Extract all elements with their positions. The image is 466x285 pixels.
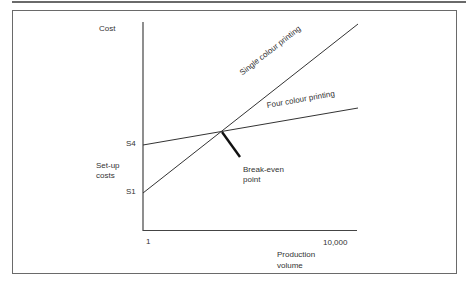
s4-tick-label: S4 xyxy=(126,139,136,149)
four-colour-line xyxy=(143,108,358,145)
break-even-label-1: Break-even xyxy=(243,165,284,175)
x-axis-label-1: Production xyxy=(277,250,315,260)
setup-costs-label-1: Set-up xyxy=(96,161,120,171)
s1-tick-label: S1 xyxy=(126,187,136,197)
break-even-arrow xyxy=(222,132,240,157)
y-axis-label: Cost xyxy=(99,24,115,34)
x-max-tick-label: 10,000 xyxy=(323,238,347,248)
x-axis-label-2: volume xyxy=(277,261,303,271)
setup-costs-label-2: costs xyxy=(96,171,115,181)
x-min-tick-label: 1 xyxy=(146,237,150,247)
break-even-label-2: point xyxy=(243,175,260,185)
plot-area xyxy=(0,0,466,285)
